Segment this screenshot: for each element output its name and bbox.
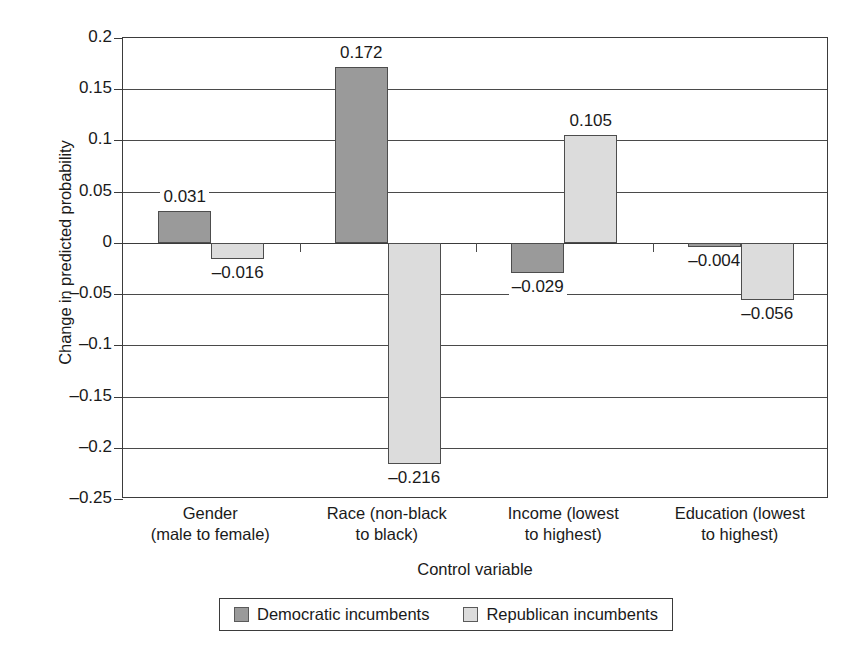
bar-republican[interactable]: [741, 243, 794, 300]
legend-label: Republican incumbents: [486, 606, 658, 623]
gridline: [123, 294, 827, 295]
gridline: [123, 89, 827, 90]
x-axis-category-label: Gender(male to female): [122, 503, 299, 545]
y-axis-tick-label: 0.2: [50, 28, 112, 45]
bar-democratic[interactable]: [158, 211, 211, 243]
y-axis-tick-mark: [114, 294, 123, 295]
x-axis-category-line: to highest): [652, 524, 829, 545]
bar-value-text: –0.016: [209, 263, 267, 282]
gridline: [123, 345, 827, 346]
x-axis-category-label: Income (lowestto highest): [475, 503, 652, 545]
y-axis-tick-mark: [114, 89, 123, 90]
y-axis-tick-label: –0.05: [50, 284, 112, 301]
legend-swatch-icon: [234, 607, 249, 622]
bar-value-label: –0.029: [488, 278, 588, 296]
gridline: [123, 140, 827, 141]
x-axis-category-line: Education (lowest: [652, 503, 829, 524]
bar-value-label: –0.016: [188, 264, 288, 282]
bar-democratic[interactable]: [511, 243, 564, 273]
bar-republican[interactable]: [388, 243, 441, 464]
y-axis-tick-label: –0.15: [50, 387, 112, 404]
y-axis-tick-mark: [114, 192, 123, 193]
y-axis-tick-label: –0.2: [50, 438, 112, 455]
x-axis-category-label: Race (non-blackto black): [299, 503, 476, 545]
y-axis-tick-label: –0.25: [50, 489, 112, 506]
y-axis-tick-label: 0.05: [50, 182, 112, 199]
y-axis-tick-label: 0.15: [50, 79, 112, 96]
x-axis-tick-mark: [653, 243, 654, 252]
bar-value-label: 0.172: [311, 44, 411, 62]
bar-value-label: 0.105: [541, 112, 641, 130]
bar-value-label: –0.216: [364, 469, 464, 487]
y-axis-tick-mark: [114, 499, 123, 500]
legend-label: Democratic incumbents: [257, 606, 429, 623]
bar-value-label: 0.031: [135, 188, 235, 206]
bar-chart-figure: Change in predicted probability 0.20.150…: [0, 0, 856, 662]
bar-republican[interactable]: [564, 135, 617, 243]
x-axis-category-labels: Gender(male to female)Race (non-blackto …: [122, 503, 828, 561]
gridline: [123, 448, 827, 449]
y-axis-tick-mark: [114, 243, 123, 244]
bar-value-text: 0.031: [160, 187, 209, 206]
x-axis-category-line: to black): [299, 524, 476, 545]
bar-value-text: –0.004: [685, 251, 743, 270]
y-axis-tick-mark: [114, 140, 123, 141]
x-axis-tick-mark: [476, 243, 477, 252]
bar-democratic[interactable]: [335, 67, 388, 243]
y-axis-tick-label: 0.1: [50, 130, 112, 147]
bar-value-label: –0.056: [717, 305, 817, 323]
y-axis-tick-mark: [114, 397, 123, 398]
legend-swatch-icon: [463, 607, 478, 622]
plot-area: 0.031–0.0160.172–0.216–0.0290.105–0.004–…: [122, 37, 828, 498]
x-axis-tick-mark: [300, 243, 301, 252]
x-axis-category-line: Income (lowest: [475, 503, 652, 524]
legend-entry[interactable]: Democratic incumbents: [234, 606, 429, 623]
gridline: [123, 397, 827, 398]
bar-democratic[interactable]: [688, 243, 741, 247]
legend-entry[interactable]: Republican incumbents: [463, 606, 658, 623]
bar-value-text: –0.216: [385, 468, 443, 487]
y-axis-tick-mark: [114, 345, 123, 346]
x-axis-category-line: Race (non-black: [299, 503, 476, 524]
y-axis-tick-mark: [114, 38, 123, 39]
chart-legend: Democratic incumbentsRepublican incumben…: [219, 598, 673, 631]
bar-value-text: 0.105: [566, 111, 615, 130]
x-axis-category-line: to highest): [475, 524, 652, 545]
bar-republican[interactable]: [211, 243, 264, 259]
x-axis-category-label: Education (lowestto highest): [652, 503, 829, 545]
x-axis-title: Control variable: [122, 560, 828, 579]
y-axis-tick-label: 0: [50, 233, 112, 250]
y-axis-tick-label: –0.1: [50, 335, 112, 352]
bar-value-text: –0.029: [509, 277, 567, 296]
y-axis-tick-labels: 0.20.150.10.050–0.05–0.1–0.15–0.2–0.25: [48, 0, 112, 662]
x-axis-category-line: Gender: [122, 503, 299, 524]
bar-value-text: 0.172: [337, 43, 386, 62]
y-axis-tick-mark: [114, 448, 123, 449]
bar-value-text: –0.056: [738, 304, 796, 323]
x-axis-category-line: (male to female): [122, 524, 299, 545]
